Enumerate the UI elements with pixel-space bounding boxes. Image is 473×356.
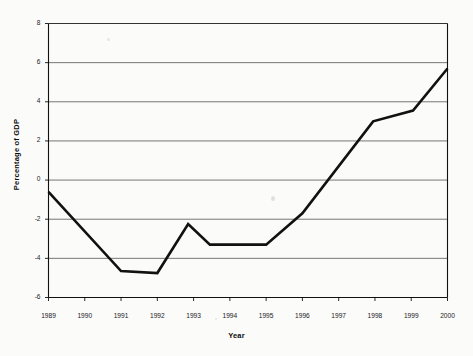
gridlines — [49, 24, 448, 259]
data-line — [49, 69, 448, 274]
plot-area — [0, 0, 473, 356]
chart-figure: Percentage of GDP Year 86420-2-4-6 19891… — [0, 0, 473, 356]
data-line-series — [49, 69, 448, 274]
axis-ticks — [45, 24, 448, 302]
